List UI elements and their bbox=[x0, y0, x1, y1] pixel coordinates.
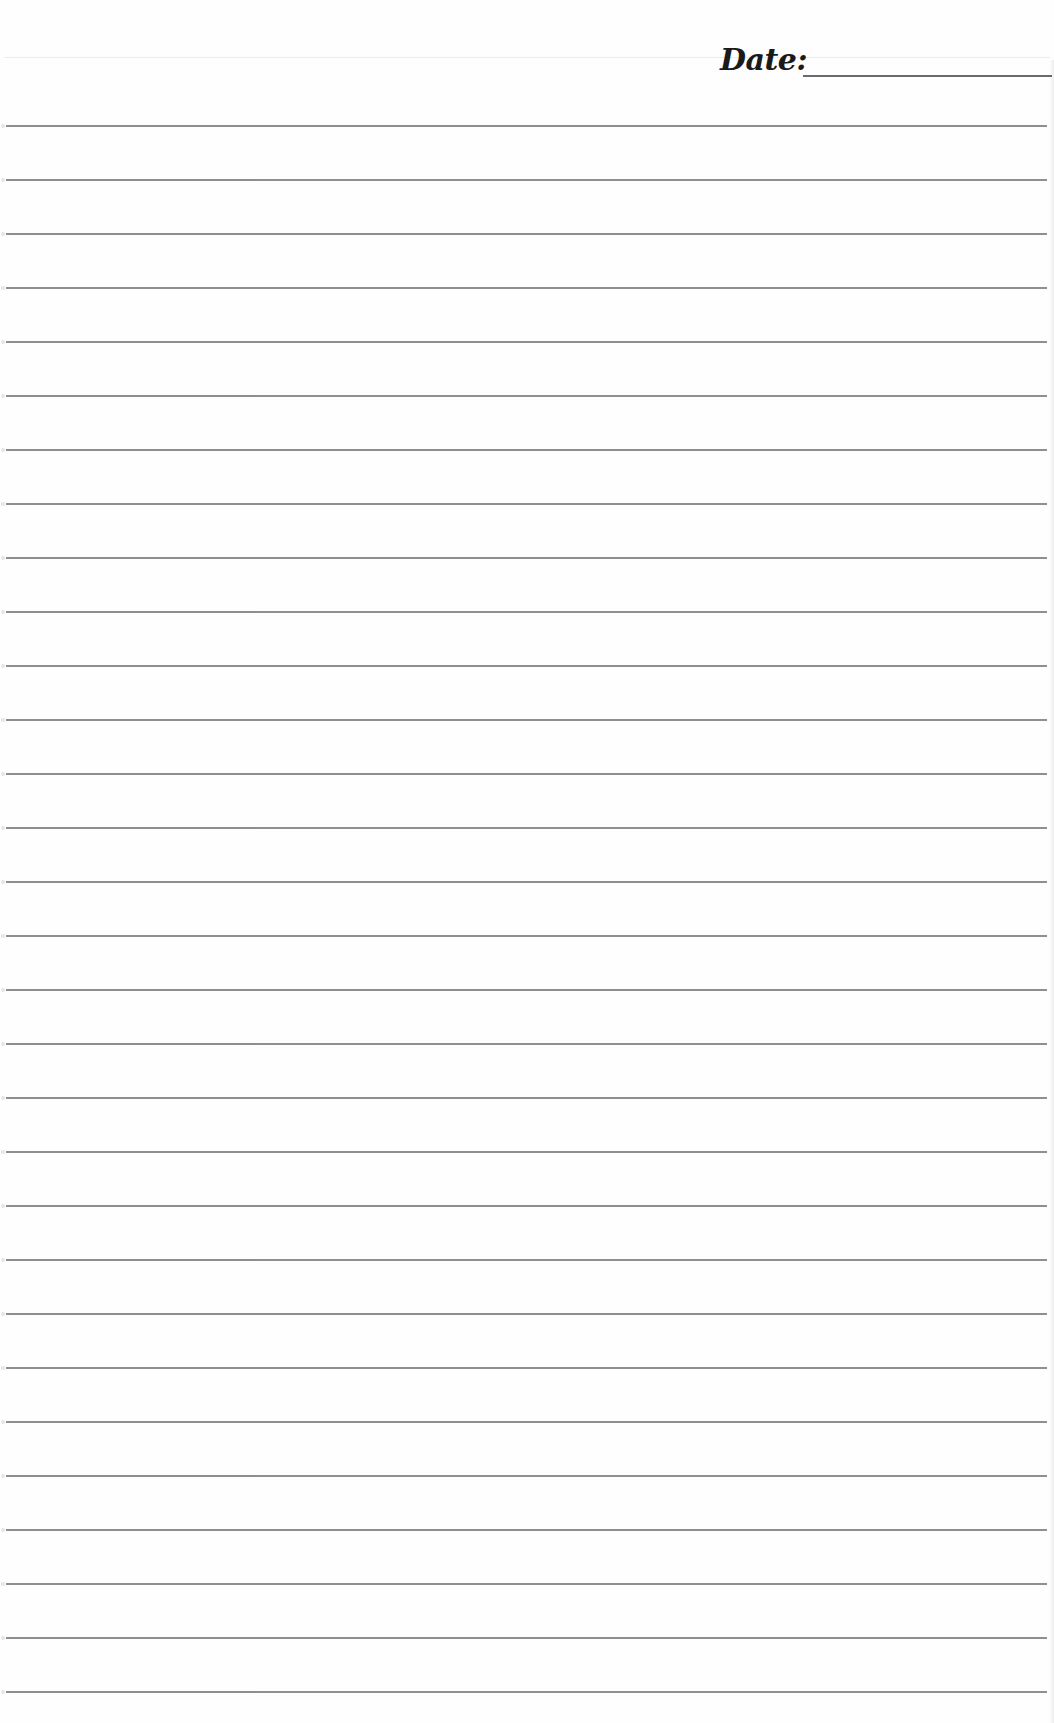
ruled-line bbox=[6, 557, 1047, 559]
ruled-line bbox=[6, 1637, 1047, 1639]
ruled-line bbox=[6, 179, 1047, 181]
ruled-line bbox=[6, 935, 1047, 937]
ruled-line bbox=[6, 449, 1047, 451]
ruled-line bbox=[6, 1151, 1047, 1153]
ruled-line bbox=[6, 1313, 1047, 1315]
ruled-line bbox=[6, 1097, 1047, 1099]
ruled-line bbox=[6, 827, 1047, 829]
ruled-line bbox=[6, 341, 1047, 343]
ruled-line bbox=[6, 287, 1047, 289]
ruled-line bbox=[6, 1475, 1047, 1477]
ruled-line bbox=[6, 881, 1047, 883]
ruled-line bbox=[6, 395, 1047, 397]
ruled-lines bbox=[0, 0, 1054, 1723]
ruled-line bbox=[6, 1205, 1047, 1207]
ruled-line bbox=[6, 719, 1047, 721]
ruled-line bbox=[6, 665, 1047, 667]
ruled-line bbox=[6, 1583, 1047, 1585]
ruled-line bbox=[6, 773, 1047, 775]
ruled-line bbox=[6, 611, 1047, 613]
ruled-line bbox=[6, 1691, 1047, 1693]
ruled-line bbox=[6, 1421, 1047, 1423]
ruled-line bbox=[6, 1367, 1047, 1369]
ruled-line bbox=[6, 1043, 1047, 1045]
ruled-line bbox=[6, 503, 1047, 505]
ruled-line bbox=[6, 1259, 1047, 1261]
ruled-line bbox=[6, 989, 1047, 991]
ruled-line bbox=[6, 125, 1047, 127]
ruled-line bbox=[6, 233, 1047, 235]
notebook-page: Date: bbox=[0, 0, 1054, 1723]
ruled-line bbox=[6, 1529, 1047, 1531]
